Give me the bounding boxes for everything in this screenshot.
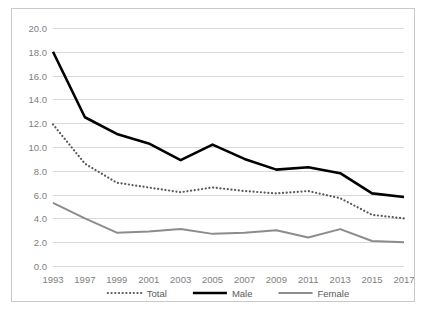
x-tick-label: 2003 bbox=[170, 274, 191, 285]
chart-legend: TotalMaleFemale bbox=[108, 288, 349, 299]
chart-frame: 0.02.04.06.08.010.012.014.016.018.020.0 … bbox=[11, 8, 415, 302]
x-tick-label: 2011 bbox=[298, 274, 318, 285]
y-tick-label: 14.0 bbox=[29, 94, 48, 105]
y-tick-label: 4.0 bbox=[34, 213, 47, 224]
y-tick-label: 0.0 bbox=[34, 261, 47, 272]
x-tick-label: 2009 bbox=[266, 274, 287, 285]
x-tick-label: 1993 bbox=[42, 274, 63, 285]
legend-label-total: Total bbox=[147, 288, 167, 299]
gridline-group bbox=[53, 29, 404, 267]
x-tick-label: 2005 bbox=[202, 274, 223, 285]
line-chart: 0.02.04.06.08.010.012.014.016.018.020.0 … bbox=[12, 9, 414, 301]
y-tick-label: 16.0 bbox=[29, 71, 48, 82]
y-tick-label: 8.0 bbox=[34, 166, 47, 177]
x-axis-tick-labels: 1993199719992001200320052007200920112013… bbox=[42, 274, 414, 285]
series-line-female bbox=[53, 203, 404, 242]
y-tick-label: 6.0 bbox=[34, 190, 47, 201]
x-tick-label: 2007 bbox=[234, 274, 255, 285]
y-tick-label: 10.0 bbox=[29, 142, 48, 153]
legend-label-female: Female bbox=[317, 288, 349, 299]
y-axis-tick-labels: 0.02.04.06.08.010.012.014.016.018.020.0 bbox=[29, 23, 48, 272]
y-tick-label: 2.0 bbox=[34, 237, 47, 248]
x-tick-label: 1999 bbox=[106, 274, 127, 285]
x-tick-label: 1997 bbox=[74, 274, 95, 285]
x-tick-label: 2001 bbox=[138, 274, 159, 285]
x-tick-label: 2015 bbox=[362, 274, 383, 285]
y-tick-label: 12.0 bbox=[29, 118, 48, 129]
x-tick-label: 2017 bbox=[393, 274, 414, 285]
y-tick-label: 20.0 bbox=[29, 23, 48, 34]
x-tick-label: 2013 bbox=[330, 274, 351, 285]
y-tick-label: 18.0 bbox=[29, 47, 48, 58]
legend-label-male: Male bbox=[232, 288, 253, 299]
